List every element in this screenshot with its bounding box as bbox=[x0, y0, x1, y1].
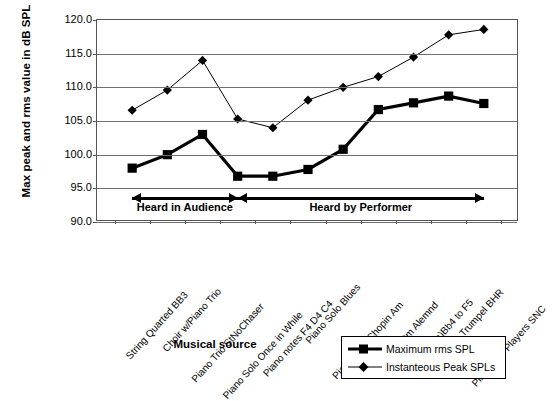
legend-label: Instanteous Peak SPLs bbox=[386, 361, 495, 373]
y-tick-label: 120.0 bbox=[46, 13, 92, 25]
annotation-line bbox=[132, 197, 238, 200]
chart-legend: Maximum rms SPL Instanteous Peak SPLs bbox=[341, 336, 506, 379]
x-axis-category-labels: String Quarted BB3Choir w/Piano TrioPian… bbox=[0, 221, 557, 331]
y-tick-label: 115.0 bbox=[46, 47, 92, 59]
y-tick-mark bbox=[93, 87, 97, 88]
data-point-square bbox=[233, 172, 242, 181]
gridline bbox=[97, 155, 517, 156]
gridline bbox=[97, 54, 517, 55]
x-category-label: Piano Solo Once in While bbox=[220, 309, 304, 401]
y-tick-mark bbox=[93, 188, 97, 189]
y-tick-mark bbox=[93, 155, 97, 156]
series-line bbox=[132, 96, 484, 176]
data-point-diamond bbox=[374, 72, 383, 81]
annotation-heard-by-performer: Heard by Performer bbox=[238, 197, 484, 219]
plot-area: Heard in Audience Heard by Performer bbox=[96, 19, 518, 221]
legend-item-instanteous-peak-spls: Instanteous Peak SPLs bbox=[348, 358, 495, 375]
data-point-square bbox=[409, 98, 418, 107]
data-point-diamond bbox=[444, 30, 453, 39]
gridline bbox=[97, 87, 517, 88]
data-point-square bbox=[479, 99, 488, 108]
data-point-diamond bbox=[479, 25, 488, 34]
data-point-diamond bbox=[233, 114, 242, 123]
annotation-heard-in-audience: Heard in Audience bbox=[132, 197, 238, 219]
y-axis-title: Max peak and rms value in dB SPL bbox=[20, 0, 32, 209]
y-tick-label: 100.0 bbox=[46, 148, 92, 160]
annotation-line bbox=[238, 197, 484, 200]
legend-key-diamond-icon bbox=[348, 360, 382, 374]
y-axis-tick-labels: 120.0115.0110.0105.0100.095.090.0 bbox=[46, 0, 92, 401]
legend-label: Maximum rms SPL bbox=[386, 343, 475, 355]
data-point-square bbox=[198, 130, 207, 139]
x-axis-title: Musical source bbox=[120, 338, 310, 350]
data-point-square bbox=[339, 145, 348, 154]
data-point-square bbox=[268, 172, 277, 181]
data-point-square bbox=[444, 91, 453, 100]
y-tick-mark bbox=[93, 20, 97, 21]
y-tick-mark bbox=[93, 121, 97, 122]
data-point-diamond bbox=[128, 106, 137, 115]
series-line bbox=[132, 29, 484, 127]
data-point-diamond bbox=[268, 123, 277, 132]
y-tick-label: 95.0 bbox=[46, 181, 92, 193]
y-tick-label: 105.0 bbox=[46, 114, 92, 126]
annotation-label: Heard in Audience bbox=[132, 201, 238, 213]
data-point-square bbox=[303, 165, 312, 174]
y-tick-mark bbox=[93, 54, 97, 55]
gridline bbox=[97, 188, 517, 189]
legend-item-maximum-rms-spl: Maximum rms SPL bbox=[348, 340, 475, 357]
data-point-square bbox=[374, 105, 383, 114]
chart-figure: Max peak and rms value in dB SPL 120.011… bbox=[0, 0, 557, 401]
data-point-diamond bbox=[303, 96, 312, 105]
gridline bbox=[97, 121, 517, 122]
annotation-label: Heard by Performer bbox=[238, 201, 484, 213]
legend-key-square-icon bbox=[348, 342, 382, 356]
y-tick-label: 110.0 bbox=[46, 80, 92, 92]
data-point-square bbox=[128, 164, 137, 173]
